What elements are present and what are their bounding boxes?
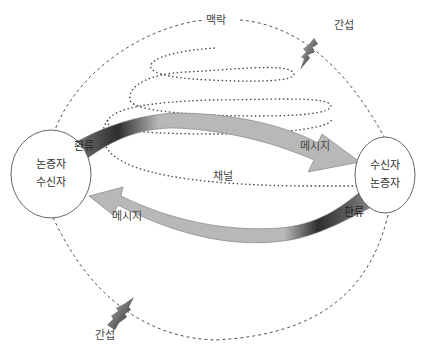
lightning-bolt-icon xyxy=(300,38,318,70)
feedback-label-left: 환류 xyxy=(74,141,94,152)
feedback-label-right: 환류 xyxy=(344,207,364,218)
message-label-top: 메시지 xyxy=(300,141,330,152)
node-right-line-1: 수신자 xyxy=(355,157,415,175)
node-left-line-2: 수신자 xyxy=(21,174,81,192)
context-label: 맥락 xyxy=(206,15,226,26)
channel-label: 채널 xyxy=(213,171,233,182)
node-left-line-1: 논증자 xyxy=(21,156,81,174)
interference-label-bottom: 간섭 xyxy=(95,330,115,341)
node-right-line-2: 논증자 xyxy=(355,175,415,193)
node-right-text: 수신자 논증자 xyxy=(355,157,415,193)
lightning-bolt-icon xyxy=(107,297,134,330)
node-left-text: 논증자 수신자 xyxy=(21,156,81,192)
interference-label-top: 간섭 xyxy=(334,20,354,31)
message-label-bottom: 메시지 xyxy=(112,211,142,222)
